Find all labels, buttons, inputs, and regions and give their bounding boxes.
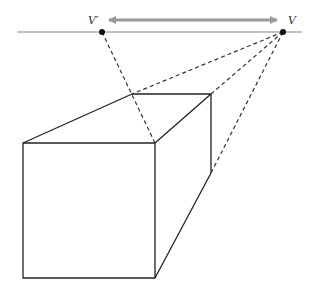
box-top-face xyxy=(23,94,211,143)
construction-lines xyxy=(102,32,283,173)
box xyxy=(23,94,211,278)
dashed-line-vprime-to-front-top-right xyxy=(102,32,155,143)
dashed-line-v-to-back-right-top xyxy=(211,32,283,94)
vanishing-point-right-dot xyxy=(280,29,286,35)
perspective-diagram: V′ V xyxy=(0,0,319,297)
dashed-line-v-to-back-left-top xyxy=(132,32,283,94)
label-v: V xyxy=(288,14,297,27)
box-right-face xyxy=(155,94,211,278)
label-v-prime: V′ xyxy=(88,14,99,27)
dashed-line-v-to-back-right-bottom xyxy=(211,32,283,173)
box-front-face xyxy=(23,143,155,278)
vanishing-point-left-dot xyxy=(99,29,105,35)
